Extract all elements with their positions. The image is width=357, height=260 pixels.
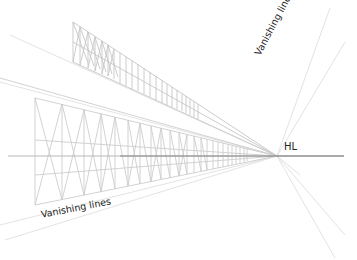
horizon-line-label: HL (284, 141, 297, 152)
upper-truss (73, 22, 277, 156)
perspective-diagram: HL Vanishing lines Vanishing lines (0, 0, 357, 260)
lower-frame (0, 78, 277, 205)
vanishing-lines (0, 8, 345, 258)
perspective-drawing (0, 0, 357, 260)
